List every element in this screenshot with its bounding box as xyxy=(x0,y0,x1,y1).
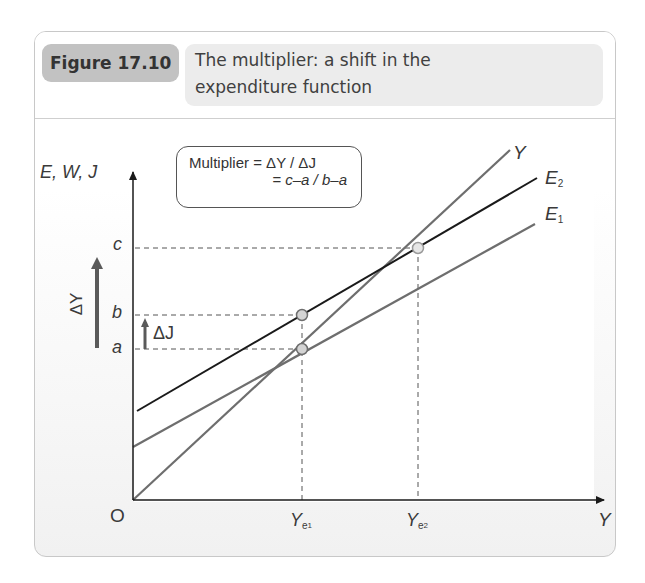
line-e1 xyxy=(133,224,535,447)
y-axis-label: E, W, J xyxy=(40,162,97,183)
multiplier-formula-box: Multiplier = ΔY / ΔJ = c–a / b–a xyxy=(176,146,362,208)
chart-svg xyxy=(0,0,645,583)
point-ye1-e2 xyxy=(297,310,308,321)
line-label-e2: E2 xyxy=(545,167,563,189)
guide-lines xyxy=(135,248,418,500)
tick-label-c: c xyxy=(113,234,122,255)
tick-label-a: a xyxy=(112,337,122,358)
tick-label-ye2: Ye2 xyxy=(406,510,428,531)
delta-j-label: ΔJ xyxy=(153,323,174,344)
tick-label-b: b xyxy=(112,302,122,323)
line-label-y: Y xyxy=(513,142,526,164)
origin-label: O xyxy=(110,505,125,527)
line-e2 xyxy=(137,178,537,411)
x-axis-label: Y xyxy=(598,509,611,531)
delta-y-label: ΔY xyxy=(67,293,87,316)
tick-label-ye1: Ye1 xyxy=(290,510,312,531)
point-ye1-e1 xyxy=(297,344,308,355)
point-ye2-e2 xyxy=(413,243,424,254)
line-label-e1: E1 xyxy=(545,203,563,225)
multiplier-formula-line1: Multiplier = ΔY / ΔJ xyxy=(189,154,351,171)
multiplier-formula-line2: = c–a / b–a xyxy=(189,171,351,188)
